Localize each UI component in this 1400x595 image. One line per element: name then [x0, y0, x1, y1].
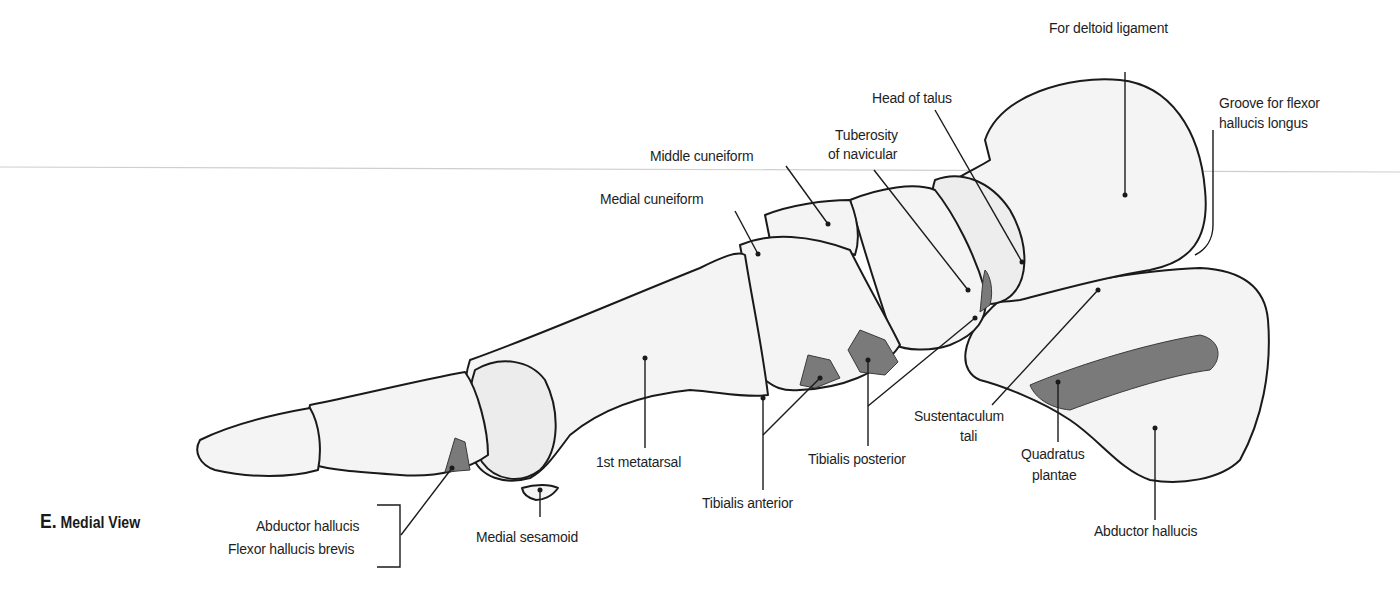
leader-abductor-flexor	[401, 468, 452, 535]
label-medial-sesamoid: Medial sesamoid	[476, 527, 578, 546]
figure-caption: E. Medial View	[40, 510, 140, 533]
foot-medial-view-illustration	[0, 0, 1400, 595]
label-head-of-talus: Head of talus	[872, 88, 952, 107]
label-flexor-hallucis-brevis: Flexor hallucis brevis	[228, 539, 354, 558]
label-tibialis-posterior: Tibialis posterior	[808, 449, 906, 468]
label-for-deltoid-ligament: For deltoid ligament	[1049, 18, 1168, 37]
label-middle-cuneiform: Middle cuneiform	[650, 146, 753, 165]
label-tuberosity-line1: Tuberosity	[835, 125, 898, 144]
label-tuberosity-line2: of navicular	[828, 144, 897, 163]
figure-title: Medial View	[61, 514, 141, 531]
label-first-metatarsal: 1st metatarsal	[596, 452, 681, 471]
label-sustentaculum-line2: tali	[960, 426, 977, 445]
bracket-abductor-flexor	[377, 505, 400, 567]
label-groove-fhl-line1: Groove for flexor	[1219, 93, 1320, 112]
label-quadratus-line1: Quadratus	[1021, 444, 1085, 463]
distal-phalanx-bone	[197, 408, 320, 476]
label-abductor-hallucis-calcaneus: Abductor hallucis	[1094, 521, 1197, 540]
label-sustentaculum-line1: Sustentaculum	[914, 406, 1004, 425]
label-groove-fhl-line2: hallucis longus	[1219, 113, 1308, 132]
label-quadratus-line2: plantae	[1032, 465, 1077, 484]
label-medial-cuneiform: Medial cuneiform	[600, 189, 703, 208]
label-abductor-hallucis-toe: Abductor hallucis	[256, 516, 359, 535]
figure-letter: E.	[40, 510, 57, 532]
label-tibialis-anterior: Tibialis anterior	[702, 493, 793, 512]
